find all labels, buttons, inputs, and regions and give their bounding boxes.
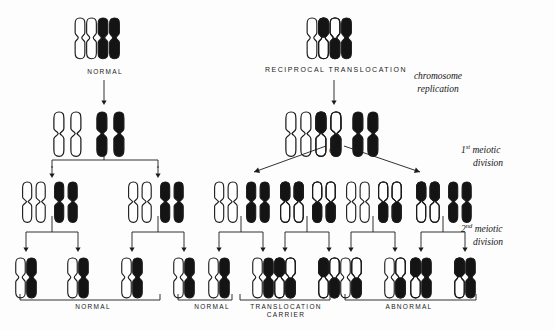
translocation-parent-chromosome-3 [330, 18, 340, 59]
normal-replicated-black-1 [97, 112, 107, 156]
gamete-6-chromosome-1 [253, 258, 263, 298]
first-division-sup: st [466, 143, 470, 150]
carrier-line1: TRANSLOCATION [250, 303, 322, 310]
second-division-arrow-3a-head [216, 247, 221, 252]
second-division-arrow-1b-head [75, 247, 80, 252]
abnormal-daughter-1-dyad-1-1 [347, 182, 356, 222]
abnormal-daughter-2-dyad-2-1 [449, 182, 458, 222]
normal-replicated-black-2 [114, 112, 124, 156]
carrier-daughter-2-dyad-1-1 [281, 182, 290, 222]
carrier-daughter-2-dyad-2-1 [313, 182, 322, 222]
gamete-1-chromosome-2 [27, 258, 37, 298]
carrier-daughter-1-dyad-1-1 [215, 182, 224, 222]
normal-daughter-2-dyad-1-1 [129, 182, 138, 222]
second-division-line2: division [461, 237, 503, 247]
translocation-parent-chromosome-2 [319, 18, 329, 59]
gamete-2-chromosome-1 [68, 258, 78, 298]
gamete-1-chromosome-1 [16, 258, 26, 298]
chromosome-layer [16, 18, 476, 298]
replication-arrow-normal-head [101, 100, 106, 105]
gamete-12-chromosome-1 [455, 258, 465, 298]
label-outcome-translocation-carrier: TRANSLOCATION CARRIER [244, 303, 328, 319]
gamete-12-chromosome-2 [466, 258, 476, 298]
first-division-arrow-abnormal [344, 146, 420, 172]
gamete-2-chromosome-2 [79, 258, 89, 298]
normal-daughter-1-dyad-1-1 [23, 182, 32, 222]
normal-parent-chromosome-4 [110, 18, 120, 59]
normal-replicated-white-2 [71, 112, 81, 156]
gamete-10-chromosome-1 [385, 258, 395, 298]
second-division-arrow-4b-head [326, 247, 331, 252]
gamete-5-chromosome-2 [220, 258, 230, 298]
normal-parent-chromosome-3 [98, 18, 108, 59]
gamete-11-chromosome-2 [422, 258, 432, 298]
normal-daughter-2-dyad-1-2 [142, 182, 151, 222]
label-chromosome-replication: chromosome replication [388, 70, 488, 96]
second-division-arrow-2b-head [181, 247, 186, 252]
translocation-replicated-black-2 [368, 112, 378, 156]
gamete-10-chromosome-2 [396, 258, 406, 298]
gamete-7-chromosome-1 [275, 258, 285, 298]
label-outcome-normal-left: NORMAL [68, 303, 118, 311]
gamete-3-chromosome-2 [133, 258, 143, 298]
second-division-sup: nd [466, 222, 473, 229]
second-division-line1: meiotic [475, 224, 503, 234]
normal-parent-chromosome-1 [75, 18, 85, 59]
second-division-arrow-2a-head [129, 247, 134, 252]
abnormal-daughter-1-dyad-2-1 [379, 182, 388, 222]
normal-daughter-2-dyad-2-2 [174, 182, 183, 222]
translocation-meiosis-figure: NORMAL RECIPROCAL TRANSLOCATION chromoso… [0, 0, 555, 330]
gamete-8-chromosome-1 [319, 258, 329, 298]
gamete-11-chromosome-1 [411, 258, 421, 298]
label-first-meiotic-division: 1st meiotic division [461, 143, 551, 170]
label-normal-top: NORMAL [60, 68, 150, 76]
gamete-4-chromosome-2 [185, 258, 195, 298]
normal-replicated-white-1 [54, 112, 64, 156]
carrier-daughter-1-dyad-2-2 [260, 182, 269, 222]
translocation-parent-chromosome-1 [307, 18, 317, 59]
first-division-arrow-normal-2-head [155, 173, 160, 178]
gamete-9-chromosome-1 [341, 258, 351, 298]
gamete-9-chromosome-2 [352, 258, 362, 298]
normal-daughter-1-dyad-2-1 [55, 182, 64, 222]
translocation-replicated-der-a-1 [316, 112, 326, 156]
label-outcome-abnormal: ABNORMAL [381, 303, 437, 311]
normal-daughter-2-dyad-2-1 [161, 182, 170, 222]
second-division-arrow-4a-head [282, 247, 287, 252]
second-division-arrow-3b-head [260, 247, 265, 252]
carrier-daughter-1-dyad-1-2 [228, 182, 237, 222]
replication-arrow-translocation-head [331, 100, 336, 105]
abnormal-daughter-1-dyad-2-2 [392, 182, 401, 222]
carrier-daughter-2-dyad-1-2 [294, 182, 303, 222]
normal-daughter-1-dyad-1-2 [36, 182, 45, 222]
normal-parent-chromosome-2 [87, 18, 97, 59]
translocation-replicated-white-1 [286, 112, 296, 156]
normal-daughter-1-dyad-2-2 [68, 182, 77, 222]
gamete-3-chromosome-1 [122, 258, 132, 298]
second-division-arrow-5b-head [392, 247, 397, 252]
translocation-replicated-white-2 [301, 112, 311, 156]
gamete-5-chromosome-1 [209, 258, 219, 298]
label-second-meiotic-division: 2nd meiotic division [461, 222, 551, 249]
carrier-daughter-2-dyad-2-2 [326, 182, 335, 222]
label-outcome-normal-mid: NORMAL [190, 303, 234, 311]
first-division-line1: meiotic [472, 145, 500, 155]
abnormal-daughter-2-dyad-1-1 [417, 182, 426, 222]
first-division-line2: division [461, 158, 503, 168]
gamete-7-chromosome-2 [286, 258, 296, 298]
carrier-daughter-1-dyad-2-1 [247, 182, 256, 222]
chromosome-replication-line1: chromosome [414, 71, 462, 81]
chromosome-replication-line2: replication [417, 84, 458, 94]
gamete-8-chromosome-2 [330, 258, 340, 298]
second-division-arrow-1a-head [23, 247, 28, 252]
carrier-line2: CARRIER [267, 311, 305, 318]
abnormal-daughter-2-dyad-1-2 [430, 182, 439, 222]
abnormal-daughter-1-dyad-1-2 [360, 182, 369, 222]
second-division-arrow-5a-head [348, 247, 353, 252]
second-division-arrow-6a-head [418, 247, 423, 252]
abnormal-daughter-2-dyad-2-2 [462, 182, 471, 222]
translocation-parent-chromosome-4 [342, 18, 352, 59]
label-or: OR [329, 147, 341, 154]
gamete-6-chromosome-2 [264, 258, 274, 298]
first-division-arrow-normal-1-head [49, 173, 54, 178]
